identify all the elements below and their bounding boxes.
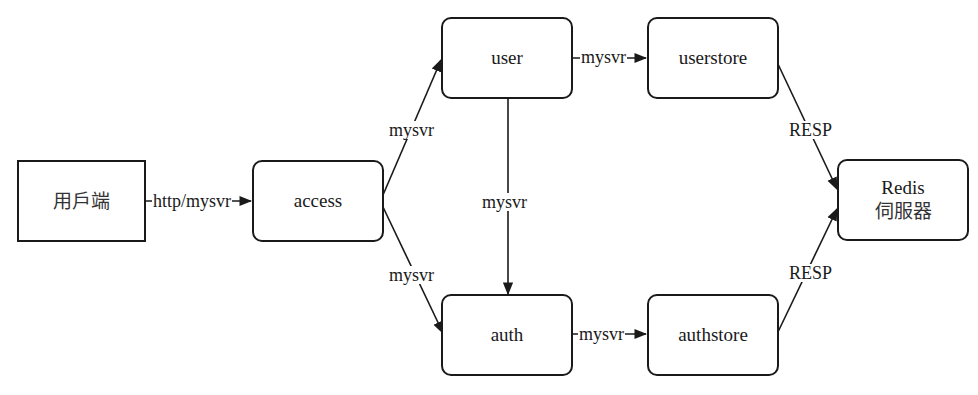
- diagram-canvas: 用戶端 access user userstore auth authstore…: [0, 0, 978, 395]
- node-user-label: user: [491, 47, 523, 70]
- node-redis: Redis 伺服器: [837, 159, 969, 241]
- node-userstore: userstore: [647, 17, 779, 99]
- node-authstore: authstore: [647, 294, 779, 376]
- node-access-label: access: [294, 190, 343, 213]
- node-client: 用戶端: [17, 160, 146, 242]
- edge-label-user-auth: mysvr: [481, 193, 528, 211]
- node-auth: auth: [441, 294, 573, 376]
- edge-label-user-userstore: mysvr: [580, 48, 627, 66]
- node-redis-label-line1: Redis: [881, 177, 924, 200]
- edge-label-access-auth: mysvr: [388, 266, 435, 284]
- edge-label-authstore-redis: RESP: [788, 264, 833, 282]
- edge-label-access-user: mysvr: [388, 121, 435, 139]
- node-auth-label: auth: [491, 324, 524, 347]
- node-client-label: 用戶端: [53, 190, 110, 213]
- edge-label-client-access: http/mysvr: [152, 192, 232, 210]
- edge-label-auth-authstore: mysvr: [578, 325, 625, 343]
- node-access: access: [252, 160, 384, 242]
- node-userstore-label: userstore: [679, 47, 748, 70]
- node-authstore-label: authstore: [678, 324, 748, 347]
- edge-label-userstore-redis: RESP: [788, 121, 833, 139]
- node-redis-label-line2: 伺服器: [875, 200, 932, 223]
- node-user: user: [441, 17, 573, 99]
